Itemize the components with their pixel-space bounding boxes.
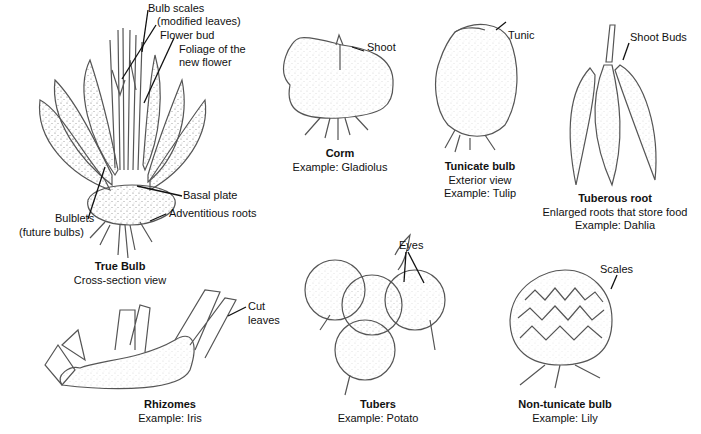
non-tunicate-leader-line — [611, 275, 617, 289]
caption-example: Example: Gladiolus — [280, 161, 400, 175]
caption-tuberous-root: Tuberous root Enlarged roots that store … — [535, 192, 695, 233]
caption-rhizomes: Rhizomes Example: Iris — [110, 398, 230, 425]
label-tunic: Tunic — [508, 29, 535, 42]
caption-tubers: Tubers Example: Potato — [318, 398, 438, 425]
label-bulb-scales-note: (modified leaves) — [157, 15, 241, 28]
label-bulblets: Bulblets — [55, 212, 94, 225]
label-shoot: Shoot — [367, 41, 396, 54]
tuberous-root-drawing — [570, 25, 656, 185]
label-basal-plate: Basal plate — [183, 189, 237, 202]
label-bulblets-note: (future bulbs) — [19, 226, 84, 239]
caption-tunicate-bulb: Tunicate bulb Exterior view Example: Tul… — [420, 160, 540, 201]
caption-corm: Corm Example: Gladiolus — [280, 147, 400, 174]
tunicate-leader-line — [496, 22, 506, 30]
caption-subtitle: Exterior view — [420, 174, 540, 188]
caption-title: Tuberous root — [535, 192, 695, 206]
caption-title: Rhizomes — [110, 398, 230, 412]
caption-true-bulb: True Bulb Cross-section view — [60, 260, 180, 287]
tunicate-bulb-drawing — [436, 24, 517, 152]
rhizomes-leader-line — [228, 307, 246, 316]
tuberous-root-leader-line — [623, 43, 629, 60]
caption-title: Non-tunicate bulb — [500, 398, 630, 412]
caption-title: Tunicate bulb — [420, 160, 540, 174]
caption-example: Example: Tulip — [420, 187, 540, 201]
label-cut-leaves-cont: leaves — [248, 314, 280, 327]
caption-title: True Bulb — [60, 260, 180, 274]
caption-example: Example: Potato — [318, 412, 438, 426]
caption-example: Example: Lily — [500, 412, 630, 426]
caption-title: Corm — [280, 147, 400, 161]
tubers-drawing — [305, 235, 445, 395]
caption-non-tunicate-bulb: Non-tunicate bulb Example: Lily — [500, 398, 630, 425]
label-shoot-buds: Shoot Buds — [630, 31, 687, 44]
non-tunicate-bulb-drawing — [510, 270, 612, 388]
label-bulb-scales: Bulb scales — [148, 2, 204, 15]
caption-example: Example: Dahlia — [535, 219, 695, 233]
label-flower-bud: Flower bud — [160, 29, 214, 42]
label-adventitious-roots: Adventitious roots — [169, 207, 256, 220]
label-eyes: Eyes — [399, 239, 423, 252]
caption-subtitle: Cross-section view — [60, 274, 180, 288]
caption-title: Tubers — [318, 398, 438, 412]
label-foliage: Foliage of the — [179, 43, 246, 56]
rhizomes-drawing — [45, 290, 236, 389]
caption-subtitle: Enlarged roots that store food — [535, 206, 695, 220]
label-cut-leaves: Cut — [248, 300, 265, 313]
label-scales: Scales — [600, 263, 633, 276]
caption-example: Example: Iris — [110, 412, 230, 426]
label-foliage-cont: new flower — [179, 56, 232, 69]
